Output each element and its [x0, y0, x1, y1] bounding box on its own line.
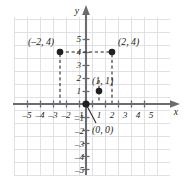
x-tick-label-neg4: –4: [34, 110, 45, 120]
point-label-neg2-4: (–2, 4): [28, 36, 54, 48]
y-tick-label-neg1: –1: [74, 113, 84, 123]
y-tick-label-neg2: –2: [74, 126, 85, 136]
x-axis-label: x: [173, 106, 179, 117]
point-neg2-4: [57, 49, 64, 56]
y-tick-label-3: 3: [75, 60, 81, 70]
y-axis-label: y: [74, 5, 80, 16]
y-tick-label-2: 2: [76, 73, 81, 83]
x-tick-label-4: 4: [136, 110, 141, 120]
origin-leader-line: [87, 106, 96, 123]
point-1-1: [96, 88, 103, 95]
point-label-0-0: (0, 0): [92, 124, 113, 136]
figure-container: –5 –4 –3 –2 –1 1 2 3 4 5 5 4 3 2 1 –1 –2…: [0, 0, 186, 184]
y-tick-label-neg3: –3: [74, 139, 85, 149]
x-tick-label-1: 1: [97, 110, 102, 120]
y-tick-label-4: 4: [76, 47, 81, 57]
point-2-4: [109, 49, 116, 56]
y-axis-arrow: [82, 5, 90, 15]
x-tick-label-neg3: –3: [47, 110, 58, 120]
point-0-0: [82, 100, 89, 107]
y-tick-label-neg5: –5: [74, 165, 85, 175]
point-label-2-4: (2, 4): [118, 36, 139, 48]
point-label-1-1: (1, 1): [92, 75, 113, 87]
coordinate-plane-graph: –5 –4 –3 –2 –1 1 2 3 4 5 5 4 3 2 1 –1 –2…: [0, 0, 186, 184]
x-tick-label-3: 3: [122, 110, 128, 120]
x-tick-labels: –5 –4 –3 –2 –1 1 2 3 4 5: [21, 110, 153, 120]
y-tick-label-5: 5: [76, 34, 81, 44]
x-tick-label-2: 2: [110, 110, 115, 120]
x-tick-label-5: 5: [149, 110, 154, 120]
x-tick-label-neg5: –5: [21, 110, 32, 120]
x-tick-label-neg2: –2: [60, 110, 71, 120]
y-tick-label-neg4: –4: [74, 152, 85, 162]
y-tick-label-1: 1: [76, 86, 81, 96]
